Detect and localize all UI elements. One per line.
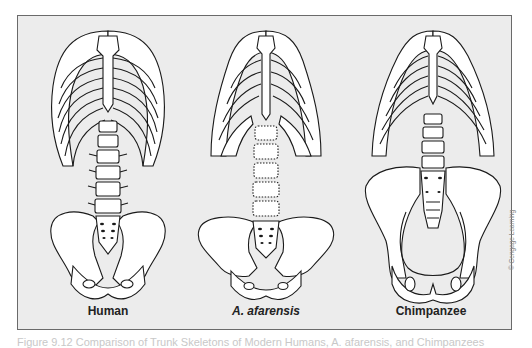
figure-caption: Figure 9.12 Comparison of Trunk Skeleton… [17, 336, 484, 348]
copyright-credit: © Cengage Learning [508, 210, 518, 270]
chimpanzee-skeleton-drawing [358, 16, 508, 306]
label-human: Human [38, 304, 178, 318]
chimpanzee-skeleton-illustration [358, 16, 508, 306]
human-skeleton-illustration [33, 16, 183, 306]
label-chimpanzee: Chimpanzee [361, 304, 501, 318]
afarensis-skeleton-illustration [191, 16, 341, 306]
figure-panel: Human [17, 15, 512, 330]
label-afarensis: A. afarensis [196, 304, 336, 318]
afarensis-skeleton-drawing [191, 16, 341, 306]
human-skeleton-drawing [33, 16, 183, 306]
